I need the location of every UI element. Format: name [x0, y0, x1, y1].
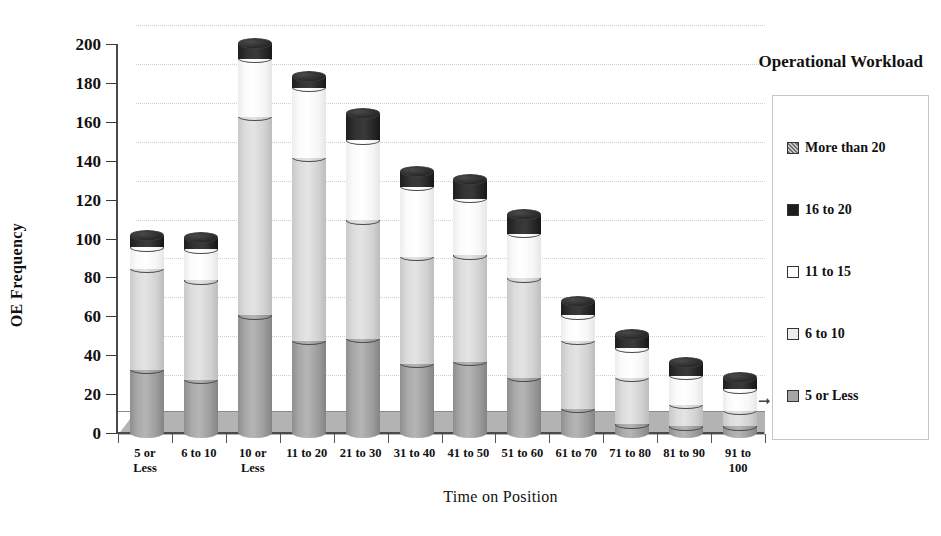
y-tick — [106, 239, 117, 240]
bar[interactable] — [723, 378, 757, 432]
bar-segment[interactable] — [669, 376, 703, 405]
bar[interactable] — [400, 171, 434, 432]
legend-item-label: 11 to 15 — [805, 264, 851, 280]
y-tick — [106, 316, 117, 317]
x-axis-title-text: Time on Position — [443, 488, 557, 505]
bar[interactable] — [130, 236, 164, 432]
bar[interactable] — [507, 214, 541, 432]
bar-segment[interactable] — [400, 364, 434, 432]
bar[interactable] — [453, 179, 487, 432]
bar-segment[interactable] — [346, 113, 380, 140]
bar-segment[interactable] — [669, 405, 703, 426]
legend-item[interactable]: 11 to 15 — [787, 264, 851, 280]
bar-segment[interactable] — [292, 88, 326, 158]
bar-segment[interactable] — [507, 378, 541, 432]
bar[interactable] — [669, 362, 703, 432]
bar-segment-body — [238, 117, 272, 315]
bar-segment[interactable] — [561, 341, 595, 409]
bar-top-cap — [238, 38, 272, 49]
bar-segment[interactable] — [453, 179, 487, 198]
bar[interactable] — [184, 238, 218, 433]
legend-swatch-icon — [787, 142, 799, 154]
y-tick — [106, 394, 117, 395]
bar-segment[interactable] — [238, 315, 272, 432]
bar-segment-body — [184, 249, 218, 280]
bar-segment[interactable] — [292, 76, 326, 88]
bar[interactable] — [238, 43, 272, 432]
bar-segment-body — [238, 59, 272, 117]
y-tick — [106, 122, 117, 123]
bar-segment[interactable] — [615, 335, 649, 349]
legend-box[interactable]: More than 2016 to 2011 to 156 to 105 or … — [772, 95, 929, 440]
bar-segment[interactable] — [723, 411, 757, 427]
bar[interactable] — [292, 76, 326, 432]
bar-top-cap — [346, 108, 380, 119]
bar-top-cap — [723, 372, 757, 383]
bar[interactable] — [615, 335, 649, 432]
bar-segment[interactable] — [400, 171, 434, 187]
bar-segment[interactable] — [292, 341, 326, 432]
y-tick — [106, 200, 117, 201]
bar-segment-body — [507, 378, 541, 432]
y-tick-label: 60 — [84, 308, 101, 325]
bar-segment[interactable] — [400, 187, 434, 257]
bar-segment[interactable] — [507, 278, 541, 377]
bar-segment[interactable] — [184, 280, 218, 379]
bar-segment[interactable] — [400, 257, 434, 364]
y-axis-title: OE Frequency — [8, 150, 26, 400]
bar-segment[interactable] — [184, 249, 218, 280]
bar-segment-body — [400, 187, 434, 257]
x-tick — [765, 434, 766, 443]
bar-segment[interactable] — [723, 378, 757, 390]
legend-item[interactable]: 5 or Less — [787, 388, 858, 404]
gridline — [136, 25, 765, 26]
bar-segment[interactable] — [615, 378, 649, 425]
bar-segment[interactable] — [507, 214, 541, 233]
y-tick-label: 120 — [76, 191, 102, 208]
bar-segment[interactable] — [561, 409, 595, 432]
bar-top-cap — [507, 209, 541, 220]
bar-segment-body — [184, 380, 218, 433]
legend-item[interactable]: 16 to 20 — [787, 202, 852, 218]
bar-segment[interactable] — [130, 247, 164, 268]
bar[interactable] — [346, 113, 380, 432]
bar-segment-body — [292, 158, 326, 341]
bar-segment[interactable] — [130, 370, 164, 432]
bar-segment[interactable] — [453, 362, 487, 432]
bar-top-cap — [400, 166, 434, 177]
bar-segment[interactable] — [238, 43, 272, 59]
legend-item[interactable]: 6 to 10 — [787, 326, 845, 342]
bar-segment[interactable] — [130, 236, 164, 248]
bar-segment-body — [561, 341, 595, 409]
bar-segment[interactable] — [453, 199, 487, 255]
x-tick — [172, 434, 173, 443]
y-tick — [106, 355, 117, 356]
bar-segment[interactable] — [507, 234, 541, 279]
bar-segment[interactable] — [346, 140, 380, 220]
bar-segment[interactable] — [615, 348, 649, 377]
bar-segment[interactable] — [130, 269, 164, 370]
bar-segment[interactable] — [669, 362, 703, 376]
bar-segment[interactable] — [346, 339, 380, 432]
bar[interactable] — [561, 302, 595, 432]
bar-segment[interactable] — [561, 302, 595, 316]
y-tick-label: 20 — [84, 386, 101, 403]
bar-segment[interactable] — [615, 424, 649, 432]
bar-segment[interactable] — [292, 158, 326, 341]
bar-segment[interactable] — [238, 59, 272, 117]
y-tick-label: 140 — [76, 152, 102, 169]
x-tick — [334, 434, 335, 443]
bar-segment-body — [184, 280, 218, 379]
legend-swatch-icon — [787, 328, 799, 340]
bar-segment[interactable] — [453, 255, 487, 362]
bar-segment[interactable] — [238, 117, 272, 315]
x-tick — [280, 434, 281, 443]
bar-segment[interactable] — [184, 238, 218, 250]
bar-segment[interactable] — [184, 380, 218, 433]
bar-segment[interactable] — [346, 220, 380, 339]
bar-segment[interactable] — [723, 426, 757, 432]
legend-item[interactable]: More than 20 — [787, 140, 886, 156]
bar-segment[interactable] — [669, 426, 703, 432]
bar-segment[interactable] — [561, 315, 595, 340]
bar-segment[interactable] — [723, 389, 757, 410]
